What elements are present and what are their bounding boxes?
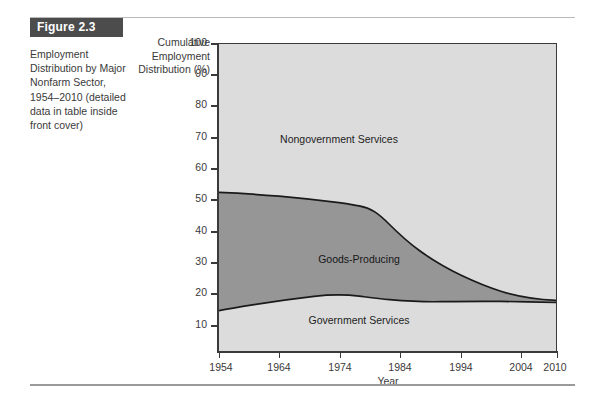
chart-area: Cumulative Employment Distribution (%) 1… [0, 0, 603, 404]
y-tick-mark-90 [211, 74, 218, 76]
x-tick-label-2010: 2010 [527, 361, 583, 373]
bottom-divider-rule [30, 384, 575, 386]
y-tick-mark-80 [211, 105, 218, 107]
y-tick-mark-30 [211, 262, 218, 264]
y-tick-mark-40 [211, 231, 218, 233]
x-tick-mark-2010 [557, 352, 558, 358]
y-tick-mark-100 [211, 43, 218, 45]
y-tick-label-20: 20 [165, 286, 207, 298]
y-tick-mark-60 [211, 168, 218, 170]
x-tick-mark-1954 [219, 352, 220, 358]
x-tick-label-1984: 1984 [372, 361, 428, 373]
y-tick-label-10: 10 [165, 318, 207, 330]
y-axis-line [217, 43, 219, 353]
y-tick-label-70: 70 [165, 130, 207, 142]
x-tick-mark-1994 [461, 352, 462, 358]
x-tick-mark-2004 [521, 352, 522, 358]
y-tick-mark-50 [211, 199, 218, 201]
y-tick-mark-70 [211, 137, 218, 139]
y-tick-label-50: 50 [165, 192, 207, 204]
x-tick-label-1964: 1964 [251, 361, 307, 373]
plot-frame [219, 43, 557, 352]
x-tick-label-1974: 1974 [312, 361, 368, 373]
x-axis-line [217, 351, 558, 353]
x-tick-label-1994: 1994 [433, 361, 489, 373]
y-tick-mark-20 [211, 293, 218, 295]
x-tick-mark-1974 [340, 352, 341, 358]
y-tick-label-80: 80 [165, 98, 207, 110]
stacked-area-plot [219, 44, 557, 352]
x-tick-mark-1984 [400, 352, 401, 358]
band-label-goods-producing: Goods-Producing [294, 253, 424, 265]
band-label-nongovernment-services: Nongovernment Services [254, 133, 424, 145]
y-tick-label-60: 60 [165, 161, 207, 173]
y-tick-label-30: 30 [165, 255, 207, 267]
figure-page: Figure 2.3 Employment Distribution by Ma… [0, 0, 603, 404]
x-tick-mark-1964 [279, 352, 280, 358]
y-tick-mark-10 [211, 325, 218, 327]
y-tick-label-100: 100 [165, 36, 207, 48]
y-tick-label-40: 40 [165, 224, 207, 236]
y-tick-label-90: 90 [165, 67, 207, 79]
band-label-government-services: Government Services [289, 314, 429, 326]
x-tick-label-1954: 1954 [193, 361, 249, 373]
